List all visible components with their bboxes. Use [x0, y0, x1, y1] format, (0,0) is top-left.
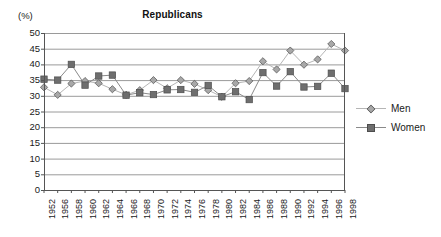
data-point-women-1984	[246, 96, 252, 102]
x-tick-label-1962: 1962	[102, 199, 111, 219]
legend-swatch-women	[356, 122, 386, 134]
data-point-women-1960	[82, 82, 88, 88]
x-tick-label-1986: 1986	[266, 199, 275, 219]
legend-label-men: Men	[386, 103, 410, 114]
x-tick-label-1996: 1996	[335, 199, 344, 219]
x-tick-label-1966: 1966	[130, 199, 139, 219]
data-point-men-1986	[259, 58, 266, 65]
x-tick-label-1982: 1982	[239, 199, 248, 219]
x-tick-label-1960: 1960	[89, 199, 98, 219]
x-tick-label-1964: 1964	[116, 199, 125, 219]
x-tick-label-1992: 1992	[307, 199, 316, 219]
x-tick-label-1970: 1970	[157, 199, 166, 219]
data-point-women-1970	[150, 91, 156, 97]
x-tick-label-1980: 1980	[225, 199, 234, 219]
gridlines	[44, 34, 345, 191]
data-point-men-1976	[191, 80, 198, 87]
y-tick-label-15: 15	[18, 138, 40, 148]
x-tick-label-1984: 1984	[253, 199, 262, 219]
data-point-women-1956	[54, 77, 60, 83]
y-tick-label-50: 50	[18, 28, 40, 38]
x-axis-tick-labels: 1952195619581960196219641966196819701972…	[44, 193, 345, 237]
axis-lines	[41, 33, 345, 193]
data-point-men-1988	[273, 66, 280, 73]
data-point-women-1974	[178, 86, 184, 92]
y-tick-label-35: 35	[18, 75, 40, 85]
data-point-men-1964	[109, 86, 116, 93]
x-tick-label-1998: 1998	[349, 199, 358, 219]
legend-diamond-marker-icon	[367, 104, 376, 113]
data-point-women-1968	[137, 89, 143, 95]
y-axis-tick-labels: 50454035302520151050	[18, 28, 40, 195]
series-markers	[40, 40, 348, 102]
plot-svg	[44, 33, 345, 190]
x-tick-label-1972: 1972	[171, 199, 180, 219]
x-tick-label-1974: 1974	[184, 199, 193, 219]
data-point-women-1996	[328, 70, 334, 76]
y-tick-label-10: 10	[18, 154, 40, 164]
data-point-women-1994	[314, 83, 320, 89]
data-point-women-1980	[219, 94, 225, 100]
data-point-women-1988	[273, 83, 279, 89]
x-tick-label-1978: 1978	[212, 199, 221, 219]
data-point-women-1976	[191, 89, 197, 95]
data-point-women-1978	[205, 82, 211, 88]
y-tick-label-5: 5	[18, 169, 40, 179]
data-point-men-1984	[246, 77, 253, 84]
legend-entry-women[interactable]: Women	[356, 118, 438, 137]
x-tick-label-1976: 1976	[198, 199, 207, 219]
x-tick-label-1952: 1952	[48, 199, 57, 219]
data-point-women-1972	[164, 87, 170, 93]
data-point-women-1992	[301, 84, 307, 90]
x-tick-label-1958: 1958	[75, 199, 84, 219]
legend-entry-men[interactable]: Men	[356, 99, 438, 118]
republicans-line-chart: (%) Republicans 50454035302520151050 195…	[0, 0, 441, 237]
y-tick-label-45: 45	[18, 44, 40, 54]
data-point-men-1970	[150, 77, 157, 84]
y-tick-label-20: 20	[18, 122, 40, 132]
y-tick-label-25: 25	[18, 107, 40, 117]
x-tick-label-1988: 1988	[280, 199, 289, 219]
y-tick-label-30: 30	[18, 91, 40, 101]
x-tick-label-1990: 1990	[294, 199, 303, 219]
data-point-women-1966	[123, 92, 129, 98]
x-tick-label-1994: 1994	[321, 199, 330, 219]
data-point-women-1990	[287, 68, 293, 74]
data-point-women-1964	[109, 72, 115, 78]
data-point-women-1986	[260, 69, 266, 75]
plot-area	[44, 33, 345, 190]
legend-square-marker-icon	[367, 124, 375, 132]
chart-title: Republicans	[0, 9, 345, 20]
data-point-men-1974	[177, 77, 184, 84]
y-tick-label-40: 40	[18, 59, 40, 69]
data-point-women-1958	[68, 61, 74, 67]
data-point-women-1982	[232, 89, 238, 95]
x-tick-label-1956: 1956	[61, 199, 70, 219]
chart-legend: MenWomen	[356, 99, 438, 137]
x-tick-label-1968: 1968	[143, 199, 152, 219]
data-point-women-1962	[96, 73, 102, 79]
legend-label-women: Women	[386, 122, 425, 133]
y-tick-label-0: 0	[18, 185, 40, 195]
legend-swatch-men	[356, 103, 386, 115]
